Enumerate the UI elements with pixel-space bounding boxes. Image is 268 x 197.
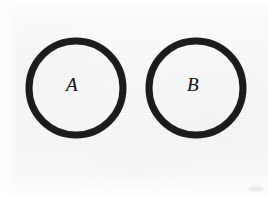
figure-container: A B: [0, 0, 268, 197]
circle-a-label: A: [66, 75, 78, 94]
circle-b-label: B: [187, 75, 199, 94]
disjoint-sets-diagram: [0, 0, 268, 197]
